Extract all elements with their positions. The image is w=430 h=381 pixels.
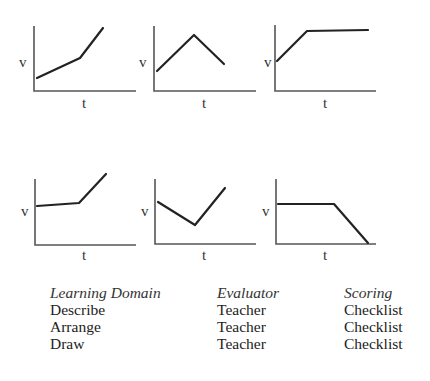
row-3-scoring: Checklist bbox=[344, 335, 403, 352]
velocity-curve bbox=[278, 204, 368, 243]
y-axis-label: v bbox=[262, 204, 270, 219]
row-2-domain: Arrange bbox=[50, 318, 101, 335]
row-2-evaluator: Teacher bbox=[217, 318, 266, 335]
header-learning-domain: Learning Domain bbox=[50, 284, 161, 301]
row-1-domain: Describe bbox=[50, 301, 105, 318]
row-1-scoring: Checklist bbox=[344, 301, 403, 318]
x-axis-label: t bbox=[323, 248, 327, 263]
header-scoring: Scoring bbox=[344, 284, 392, 301]
row-1-evaluator: Teacher bbox=[217, 301, 266, 318]
row-3-domain: Draw bbox=[50, 335, 84, 352]
row-2-scoring: Checklist bbox=[344, 318, 403, 335]
row-3-evaluator: Teacher bbox=[217, 335, 266, 352]
header-evaluator: Evaluator bbox=[217, 284, 279, 301]
